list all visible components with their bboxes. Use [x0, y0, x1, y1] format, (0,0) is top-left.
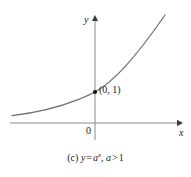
point-label-0-1: (0, 1): [99, 85, 121, 95]
figure-caption: (c) y=ax, a>1: [0, 152, 191, 163]
point-marker-0-1: [93, 90, 97, 94]
x-axis-label: x: [179, 128, 183, 138]
plot-area: [0, 0, 191, 148]
caption-part-label: (c): [67, 152, 78, 163]
origin-label: 0: [86, 126, 91, 136]
caption-part-condition-value: 1: [119, 152, 124, 163]
caption-part-equals: =: [85, 152, 93, 163]
x-axis-arrowhead: [177, 120, 183, 126]
caption-part-condition-op: >: [111, 152, 119, 163]
exponential-function-figure: y x 0 (0, 1) (c) y=ax, a>1: [0, 0, 191, 177]
exponential-curve: [12, 15, 165, 116]
y-axis-arrowhead: [92, 15, 98, 21]
plot-svg: [0, 0, 191, 148]
caption-part-separator: ,: [101, 152, 104, 163]
y-axis-label: y: [84, 15, 88, 25]
